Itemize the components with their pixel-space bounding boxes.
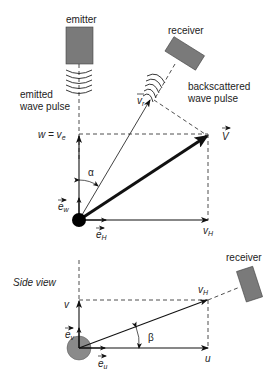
ev-label: ev (65, 329, 75, 341)
emitted-pulse-label: emitted (20, 89, 53, 100)
particle-top (72, 213, 86, 227)
receiver-device (165, 37, 205, 70)
emitted-pulse-label-2: wave pulse (19, 101, 70, 112)
backscattered-wave-pulse-icon (143, 74, 165, 102)
side-view-title: Side view (13, 277, 57, 288)
doppler-vector-diagram: emitter emitted wave pulse receiver back… (0, 0, 279, 383)
V-label: V (222, 131, 230, 142)
side-receiver-device (236, 266, 262, 302)
v-label: v (64, 299, 70, 310)
beta-label: β (148, 332, 154, 343)
w-label: w = ve (38, 129, 66, 141)
receiver-label: receiver (168, 25, 204, 36)
side-vH-vector (79, 300, 207, 348)
alpha-label: α (88, 167, 94, 178)
eH-label: eH (96, 229, 108, 241)
side-receiver-label: receiver (226, 252, 262, 263)
emitter-device (66, 27, 93, 64)
velocity-vector-V (79, 136, 207, 220)
side-vH-label: vH (198, 284, 209, 296)
u-label: u (205, 353, 211, 364)
top-view: emitter emitted wave pulse receiver back… (19, 14, 250, 241)
side-view: Side view receiver v ev eu u vH β (13, 252, 263, 370)
emitter-label: emitter (66, 14, 97, 25)
ew-label: ew (58, 201, 70, 213)
beta-arc (136, 327, 139, 348)
vH-label: vH (203, 225, 214, 237)
vr-vector (79, 100, 150, 220)
vr-label: vr (137, 95, 145, 107)
alpha-arc (79, 180, 98, 186)
eu-label: eu (98, 358, 108, 370)
backscattered-label: backscattered (188, 81, 250, 92)
backscattered-label-2: wave pulse (187, 93, 238, 104)
